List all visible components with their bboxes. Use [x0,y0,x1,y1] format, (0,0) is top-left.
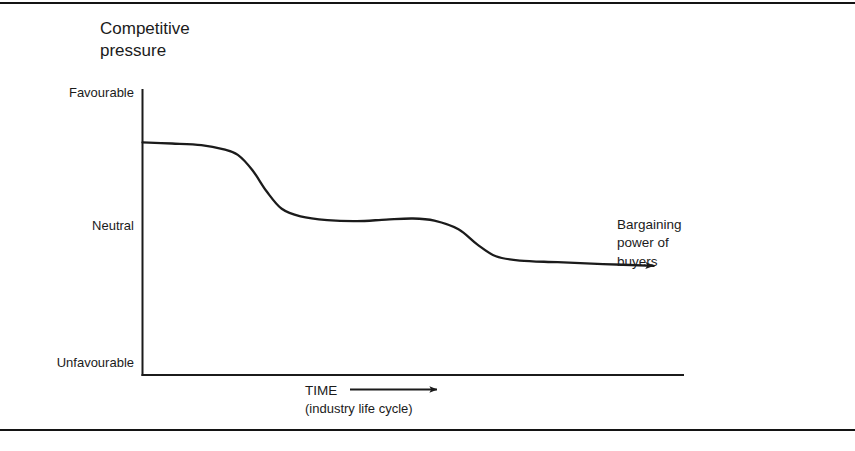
y-axis-tick-favourable: Favourable [14,85,134,101]
annotation-line-3: buyers [617,254,658,269]
x-axis-caption-time: TIME [305,383,337,398]
y-axis-tick-unfavourable: Unfavourable [14,355,134,371]
y-axis-tick-neutral: Neutral [14,218,134,234]
figure-container: Competitivepressure Favourable Neutral U… [0,0,855,451]
page-title: Competitivepressure [100,18,190,63]
annotation-bargaining-power-of-buyers: Bargainingpower ofbuyers [617,216,682,271]
x-axis-caption: TIME(industry life cycle) [305,382,413,418]
annotation-line-1: Bargaining [617,217,682,232]
competitive-pressure-curve [143,142,654,265]
chart-title-line-2: pressure [100,41,166,60]
x-axis-caption-lifecycle: (industry life cycle) [305,401,413,416]
chart-title-line-1: Competitive [100,19,190,38]
annotation-line-2: power of [617,235,669,250]
